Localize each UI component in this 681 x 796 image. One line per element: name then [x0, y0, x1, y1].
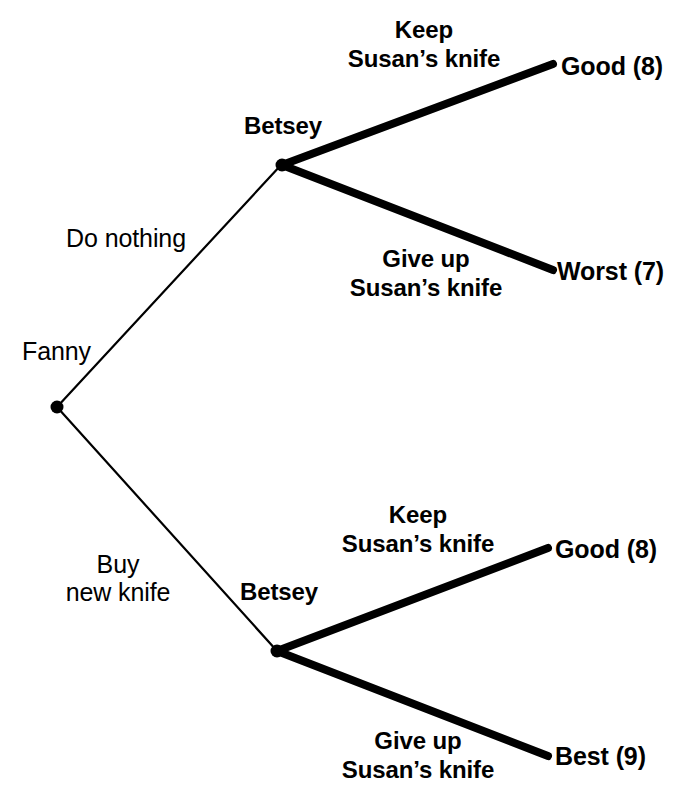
action-label-buy-new-knife-line1: Buy: [97, 550, 140, 579]
player-label-betsey-top: Betsey: [244, 112, 322, 140]
action-label-keep-top-line2: Susan’s knife: [348, 45, 501, 73]
action-label-do-nothing: Do nothing: [66, 224, 186, 253]
outcome-label-good-top: Good (8): [561, 52, 663, 81]
outcome-label-best: Best (9): [555, 742, 646, 771]
node-betsey-bottom: [271, 645, 284, 658]
action-label-give-up-top-line1: Give up: [382, 245, 469, 273]
edge-betsey-top-keep: [282, 64, 553, 165]
player-label-betsey-bottom: Betsey: [240, 578, 318, 606]
node-fanny: [51, 401, 64, 414]
action-label-keep-top-line1: Keep: [395, 16, 453, 44]
action-label-give-up-bottom-line2: Susan’s knife: [342, 756, 495, 784]
edge-fanny-buy-new-knife: [57, 407, 277, 651]
outcome-label-worst: Worst (7): [557, 257, 664, 286]
action-label-keep-bottom-line2: Susan’s knife: [342, 530, 495, 558]
node-betsey-top: [276, 159, 289, 172]
tree-edges-and-nodes: [0, 0, 681, 796]
game-tree-diagram: Fanny Betsey Betsey Do nothing Buy new k…: [0, 0, 681, 796]
action-label-keep-bottom-line1: Keep: [389, 501, 447, 529]
action-label-give-up-bottom-line1: Give up: [374, 727, 461, 755]
action-label-give-up-top-line2: Susan’s knife: [350, 274, 503, 302]
edge-fanny-do-nothing: [57, 165, 281, 407]
action-label-buy-new-knife-line2: new knife: [66, 578, 171, 607]
outcome-label-good-bottom: Good (8): [555, 535, 657, 564]
player-label-fanny: Fanny: [22, 337, 91, 366]
